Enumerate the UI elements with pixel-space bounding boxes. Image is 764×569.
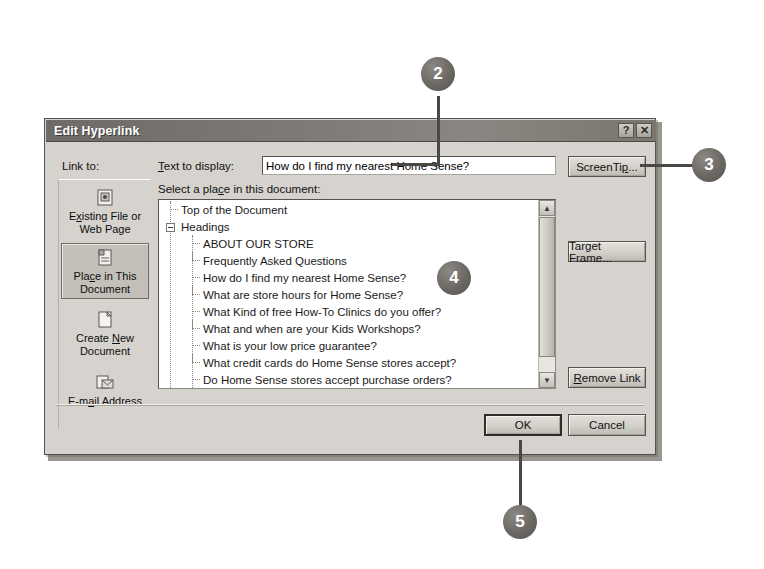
sidebar-item-label: Place in ThisDocument	[74, 270, 137, 295]
tree-branch-tick	[192, 303, 200, 312]
list-item[interactable]: What and when are your Kids Workshops?	[159, 321, 538, 338]
callout-5-leader-vertical	[519, 440, 522, 506]
target-frame-button[interactable]: Target Frame...	[568, 241, 646, 262]
link-to-sidebar: Existing File orWeb Page Place in ThisDo…	[58, 179, 150, 429]
callout-2: 2	[421, 57, 455, 91]
list-item-label: How do I find my nearest Home Sense?	[203, 270, 406, 287]
list-item-label: Frequently Asked Questions	[203, 253, 347, 270]
list-item-label: What Kind of free How-To Clinics do you …	[203, 304, 441, 321]
tree-branch-tick	[192, 320, 200, 329]
list-item-label: What is your low price guarantee?	[203, 338, 377, 355]
create-new-document-icon	[95, 311, 115, 329]
dialog-titlebar: Edit Hyperlink ? ✕	[46, 120, 656, 142]
tree-branch-tick	[192, 354, 200, 363]
list-item-label: What credit cards do Home Sense stores a…	[203, 355, 456, 372]
list-item-label: Do Home Sense stores accept purchase ord…	[203, 372, 452, 389]
sidebar-item-place-in-document[interactable]: Place in ThisDocument	[61, 243, 149, 299]
list-item[interactable]: Headings	[159, 219, 538, 236]
list-item[interactable]: Frequently Asked Questions	[159, 253, 538, 270]
tree-branch-tick	[192, 388, 200, 389]
places-list: Top of the DocumentHeadingsABOUT OUR STO…	[159, 200, 538, 388]
target-frame-button-label: Target Frame...	[569, 240, 645, 264]
tree-branch-tick	[192, 337, 200, 346]
sidebar-item-existing-file[interactable]: Existing File orWeb Page	[61, 184, 149, 240]
callout-3: 3	[692, 148, 726, 182]
sidebar-item-label: Create NewDocument	[76, 332, 134, 357]
callout-2-leader-vertical	[437, 96, 440, 166]
sidebar-item-label: Existing File orWeb Page	[69, 210, 141, 235]
place-in-document-icon	[95, 249, 115, 267]
cancel-button[interactable]: Cancel	[568, 414, 646, 436]
scrollbar-thumb[interactable]	[539, 217, 555, 357]
callout-5: 5	[503, 505, 537, 539]
list-item[interactable]: What is your low price guarantee?	[159, 338, 538, 355]
dialog-body: Link to: Existing File orWeb Page	[46, 142, 654, 453]
places-list-rows: Top of the DocumentHeadingsABOUT OUR STO…	[159, 202, 538, 389]
list-item-label: Top of the Document	[181, 202, 287, 219]
list-item[interactable]: What Kind of free How-To Clinics do you …	[159, 304, 538, 321]
list-item[interactable]: Do Home Sense stores accept purchase ord…	[159, 372, 538, 389]
edit-hyperlink-dialog: Edit Hyperlink ? ✕ Link to: Existing Fil…	[44, 118, 656, 455]
listbox-scrollbar[interactable]: ▲ ▼	[538, 200, 555, 388]
scroll-up-icon[interactable]: ▲	[539, 200, 555, 216]
link-to-label: Link to:	[62, 160, 99, 172]
tree-branch-tick	[192, 235, 200, 244]
list-item-label: What are store hours for Home Sense?	[203, 287, 403, 304]
callout-2-leader-horizontal	[392, 163, 440, 166]
remove-link-button-label: Remove Link	[573, 372, 640, 384]
screentip-button-label: ScreenTip...	[576, 161, 638, 173]
list-item[interactable]: What are store hours for Home Sense?	[159, 287, 538, 304]
select-place-label: Select a place in this document:	[158, 183, 320, 195]
scroll-down-icon[interactable]: ▼	[539, 372, 555, 388]
list-item[interactable]: ABOUT OUR STORE	[159, 236, 538, 253]
list-item[interactable]: How do I find my nearest Home Sense?	[159, 270, 538, 287]
titlebar-buttons: ? ✕	[618, 123, 652, 138]
list-item-label: Headings	[181, 219, 230, 236]
text-to-display-label: Text to display:	[158, 160, 234, 172]
list-item[interactable]: What credit cards do Home Sense stores a…	[159, 355, 538, 372]
list-item-label: What and when are your Kids Workshops?	[203, 321, 421, 338]
tree-branch-tick	[192, 252, 200, 261]
email-address-icon	[95, 374, 115, 392]
tree-collapse-icon[interactable]	[166, 223, 175, 232]
dialog-title: Edit Hyperlink	[54, 124, 139, 138]
ok-button[interactable]: OK	[484, 414, 562, 436]
sidebar-item-create-new-document[interactable]: Create NewDocument	[61, 306, 149, 362]
tree-branch-tick	[192, 269, 200, 278]
existing-file-icon	[95, 189, 115, 207]
tree-branch-tick	[170, 201, 178, 210]
tree-branch-tick	[192, 286, 200, 295]
help-icon[interactable]: ?	[618, 123, 634, 138]
sidebar-item-email-address[interactable]: E-mail Address	[61, 369, 149, 425]
places-listbox[interactable]: Top of the DocumentHeadingsABOUT OUR STO…	[158, 199, 556, 389]
tree-branch-tick	[192, 371, 200, 380]
close-icon[interactable]: ✕	[636, 123, 652, 138]
remove-link-button[interactable]: Remove Link	[568, 367, 646, 388]
footer-separator	[56, 404, 644, 406]
callout-4: 4	[437, 261, 471, 295]
screentip-button[interactable]: ScreenTip...	[568, 156, 646, 177]
screenshot-canvas: Edit Hyperlink ? ✕ Link to: Existing Fil…	[0, 0, 764, 569]
list-item-label: ABOUT OUR STORE	[203, 236, 314, 253]
list-item[interactable]: Top of the Document	[159, 202, 538, 219]
